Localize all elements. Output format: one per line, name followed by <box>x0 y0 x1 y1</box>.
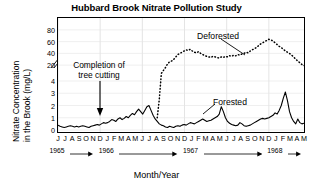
x-tick-month: J <box>63 134 67 143</box>
y-tick-3: 3 <box>37 89 55 98</box>
deforested-leader-line <box>221 39 247 57</box>
y-tick-80: 80 <box>37 25 55 34</box>
y-tick-2: 2 <box>37 101 55 110</box>
x-tick-month: O <box>83 134 89 143</box>
annotation-line1: Completion of <box>60 60 138 70</box>
x-tick-month: J <box>148 134 152 143</box>
x-tick-month: A <box>70 134 75 143</box>
x-tick-month: M <box>287 134 293 143</box>
x-tick-month: O <box>168 134 174 143</box>
x-tick-month: F <box>196 134 200 143</box>
x-tick-month: J <box>105 134 109 143</box>
x-tick-month: A <box>210 134 215 143</box>
x-tick-month: M <box>118 134 124 143</box>
y-axis-label-line2: in the Brook (mg/L) <box>22 69 32 142</box>
annotation-arrow-tree-cutting <box>95 81 105 117</box>
x-tick-month: J <box>141 134 145 143</box>
year-span-arrow <box>204 150 262 159</box>
x-tick-month: N <box>259 134 264 143</box>
x-axis-title: Month/Year <box>0 170 313 180</box>
chart-container: Hubbard Brook Nitrate Pollution Study Ni… <box>0 0 313 189</box>
x-tick-month: J <box>190 134 194 143</box>
x-tick-month: N <box>91 134 96 143</box>
x-tick-month: N <box>175 134 180 143</box>
forested-leader-line <box>203 104 217 116</box>
x-tick-month: D <box>266 134 271 143</box>
x-tick-month: S <box>245 134 250 143</box>
x-tick-month: F <box>281 134 285 143</box>
x-tick-month: A <box>295 134 300 143</box>
x-tick-month: M <box>217 134 223 143</box>
x-tick-month: A <box>126 134 131 143</box>
year-span-arrow <box>70 150 93 159</box>
x-tick-month: M <box>132 134 138 143</box>
y-tick-60: 60 <box>37 37 55 46</box>
x-tick-month: D <box>98 134 103 143</box>
annotation-line2: tree cutting <box>60 70 138 80</box>
y-tick-4: 4 <box>37 77 55 86</box>
year-label-1965: 1965 <box>49 147 64 154</box>
annotation-tree-cutting: Completion of tree cutting <box>60 60 138 80</box>
y-axis-tick-labels: 0123420406080 <box>35 17 55 133</box>
forested-label: Forested <box>213 97 247 107</box>
x-tick-month: J <box>225 134 229 143</box>
x-tick-month: M <box>203 134 209 143</box>
year-label-1966: 1966 <box>99 147 114 154</box>
y-axis-label-line1: Nitrate Concentration <box>11 61 21 142</box>
x-tick-month: D <box>182 134 187 143</box>
x-tick-month: J <box>274 134 278 143</box>
x-tick-month: A <box>238 134 243 143</box>
y-tick-0: 0 <box>37 126 55 135</box>
x-tick-month: S <box>161 134 166 143</box>
x-tick-month: J <box>232 134 236 143</box>
y-tick-1: 1 <box>37 113 55 122</box>
year-label-1968: 1968 <box>267 147 282 154</box>
year-span-arrow <box>288 150 301 159</box>
x-tick-month: J <box>56 134 60 143</box>
x-axis-year-axis: 1965196619671968 <box>40 147 313 161</box>
x-tick-month: O <box>252 134 258 143</box>
x-tick-month: F <box>112 134 116 143</box>
year-span-arrow <box>119 150 177 159</box>
x-tick-month: M <box>301 134 307 143</box>
year-label-1967: 1967 <box>183 147 198 154</box>
x-tick-month: A <box>154 134 159 143</box>
x-tick-month: S <box>77 134 82 143</box>
x-axis-month-ticks: JJASONDJFMAMJJASONDJFMAMJJASONDJFMAM <box>57 134 305 145</box>
chart-title: Hubbard Brook Nitrate Pollution Study <box>0 2 313 13</box>
